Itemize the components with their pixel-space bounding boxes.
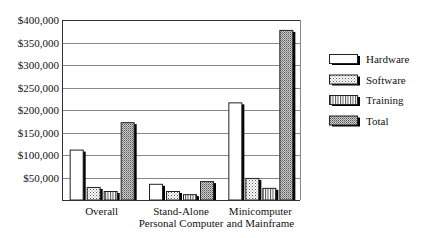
x-category-label: Minicomputerand Mainframe: [227, 205, 295, 229]
bar-total: [201, 182, 214, 200]
x-category-label: Stand-AlonePersonal Computer: [139, 205, 224, 229]
bar-total: [280, 30, 293, 200]
legend-swatch-software: [330, 75, 358, 84]
bar-training: [184, 195, 197, 200]
y-tick-label: $400,000: [18, 14, 59, 26]
y-tick-label: $300,000: [18, 59, 59, 71]
legend: [330, 55, 361, 127]
x-category-label: Overall: [85, 205, 118, 217]
bar-software: [167, 192, 180, 201]
legend-label-total: Total: [366, 115, 388, 127]
y-tick-label: $250,000: [18, 82, 59, 94]
bar-software: [246, 178, 259, 200]
y-tick-label: $350,000: [18, 37, 59, 49]
bar-total: [121, 123, 134, 200]
bar-training: [104, 192, 117, 201]
bar-training: [263, 188, 276, 200]
gridlines: [62, 21, 300, 179]
bar-chart: $50,000$100,000$150,000$200,000$250,000$…: [0, 0, 423, 238]
y-tick-label: $150,000: [18, 127, 59, 139]
legend-label-training: Training: [366, 94, 404, 106]
legend-label-software: Software: [366, 74, 406, 86]
bar-software: [87, 187, 100, 200]
y-tick-label: $50,000: [23, 172, 59, 184]
legend-label-hardware: Hardware: [366, 53, 409, 65]
y-tick-label: $100,000: [18, 149, 59, 161]
legend-swatch-hardware: [330, 55, 358, 64]
bar-hardware: [150, 184, 163, 200]
bars: [70, 30, 295, 200]
legend-swatch-training: [330, 96, 358, 105]
y-tick-label: $200,000: [18, 104, 59, 116]
legend-swatch-total: [330, 116, 358, 125]
bar-hardware: [70, 150, 83, 200]
plot-area: [0, 0, 423, 238]
bar-hardware: [229, 103, 242, 200]
